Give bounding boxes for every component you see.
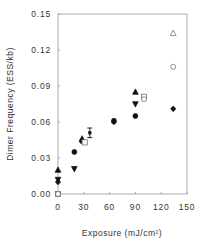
y-tick-label: 0.00 xyxy=(31,189,51,199)
y-tick-label: 0.03 xyxy=(31,153,51,163)
open-circle-marker xyxy=(142,97,147,102)
data-points xyxy=(55,30,176,197)
x-tick-label: 30 xyxy=(78,202,89,212)
open-square-marker xyxy=(82,140,87,145)
error-bar-mean-marker xyxy=(88,131,91,134)
filled-circle-marker xyxy=(72,150,77,155)
x-axis-title: Exposure (mJ/cm²) xyxy=(82,228,162,238)
x-tick-label: 120 xyxy=(153,202,170,212)
y-tick-label: 0.12 xyxy=(31,45,51,55)
filled-circle-marker xyxy=(133,114,138,119)
filled-diamond-marker xyxy=(171,106,176,112)
filled-triangle-down-marker xyxy=(71,166,77,171)
scatter-chart: 0306090120150 0.000.030.060.090.120.15 E… xyxy=(0,0,206,243)
y-tick-label: 0.15 xyxy=(31,9,51,19)
filled-triangle-down-marker xyxy=(133,102,139,107)
x-tick-label: 150 xyxy=(179,202,196,212)
x-tick-label: 90 xyxy=(130,202,141,212)
y-tick-label: 0.06 xyxy=(31,117,51,127)
open-circle-marker xyxy=(171,64,176,69)
y-axis-ticks: 0.000.030.060.090.120.15 xyxy=(31,9,60,199)
filled-triangle-up-marker xyxy=(55,167,61,172)
filled-triangle-up-marker xyxy=(133,89,139,94)
y-tick-label: 0.09 xyxy=(31,81,51,91)
open-triangle-up-marker xyxy=(170,30,176,35)
y-axis-title: Dimer Frequency (ESS/kb) xyxy=(5,47,15,161)
x-tick-label: 60 xyxy=(104,202,115,212)
x-tick-label: 0 xyxy=(55,202,61,212)
plot-frame xyxy=(58,14,187,194)
open-circle-marker xyxy=(56,192,61,197)
x-axis-ticks: 0306090120150 xyxy=(55,192,195,212)
